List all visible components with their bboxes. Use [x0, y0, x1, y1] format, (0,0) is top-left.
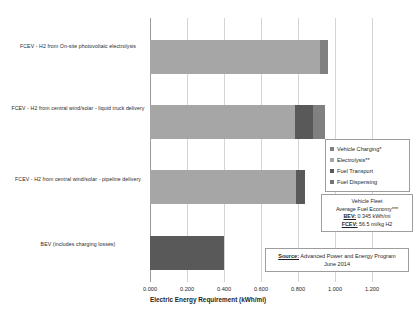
bar-segment-fuel-transport — [295, 105, 313, 139]
xtick-0-600: 0.600 — [254, 286, 268, 292]
infobox-bev-row: BEV: 0.345 kWh/mi — [324, 213, 410, 221]
category-label-fcev-pv: FCEV - H2 from On-site photovoltaic elec… — [8, 43, 148, 50]
bar-bev — [150, 236, 224, 270]
legend-item-vehicle-charging[interactable]: Vehicle Charging* — [330, 144, 406, 154]
xtick-0-200: 0.200 — [180, 286, 194, 292]
xtick-0-000: 0.000 — [143, 286, 157, 292]
source-box: Source: Advanced Power and Energy Progra… — [265, 248, 409, 272]
x-axis-title: Electric Energy Requirement (kWh/mi) — [0, 296, 416, 303]
legend-swatch-icon — [330, 158, 334, 162]
bar-fcev-liquid-truck — [150, 105, 325, 139]
infobox-line1: Vehicle Fleet — [324, 198, 410, 206]
xtick-1-200: 1.200 — [365, 286, 379, 292]
legend-item-fuel-dispensing[interactable]: Fuel Dispensing — [330, 177, 406, 187]
infobox-fcev-value: 56.5 mi/kg H2 — [359, 221, 392, 227]
chart-legend: Vehicle Charging* Electrolysis** Fuel Tr… — [325, 139, 410, 192]
legend-label: Fuel Dispensing — [337, 177, 377, 187]
bar-segment-fuel-dispensing — [320, 40, 327, 74]
infobox-fcev-label: FCEV: — [342, 221, 358, 227]
infobox-line2: Average Fuel Economy*** — [324, 206, 410, 214]
infobox-bev-value: 0.345 kWh/mi — [358, 213, 391, 219]
legend-label: Vehicle Charging* — [337, 144, 381, 154]
xtick-1-000: 1.000 — [328, 286, 342, 292]
xtick-0-400: 0.400 — [217, 286, 231, 292]
legend-label: Fuel Transport — [337, 166, 373, 176]
legend-swatch-icon — [330, 169, 334, 173]
category-label-fcev-liquid: FCEV - H2 from central wind/solar - liqu… — [8, 105, 148, 112]
source-text: Advanced Power and Energy Program — [300, 253, 395, 259]
bar-segment-electrolysis — [150, 40, 320, 74]
bar-segment-electrolysis — [150, 170, 296, 204]
chart-container: FCEV - H2 from On-site photovoltaic elec… — [0, 0, 416, 323]
source-date: June 2014 — [270, 260, 404, 268]
fuel-economy-infobox: Vehicle Fleet Average Fuel Economy*** BE… — [321, 194, 413, 232]
legend-label: Electrolysis** — [337, 155, 370, 165]
bar-fcev-photovoltaic — [150, 40, 328, 74]
bar-segment-electrolysis — [150, 105, 295, 139]
legend-item-fuel-transport[interactable]: Fuel Transport — [330, 166, 406, 176]
bar-segment-fuel-transport — [296, 170, 305, 204]
legend-item-electrolysis[interactable]: Electrolysis** — [330, 155, 406, 165]
legend-swatch-icon — [330, 147, 334, 151]
bar-fcev-pipeline — [150, 170, 305, 204]
xtick-0-800: 0.800 — [291, 286, 305, 292]
infobox-fcev-row: FCEV: 56.5 mi/kg H2 — [324, 221, 410, 229]
category-label-fcev-pipeline: FCEV - H2 from central wind/solar - pipe… — [8, 176, 148, 183]
source-label: Source: — [278, 253, 299, 259]
legend-swatch-icon — [330, 180, 334, 184]
bar-segment-fuel-dispensing — [313, 105, 325, 139]
category-label-bev: BEV (includes charging losses) — [8, 241, 148, 248]
source-line: Source: Advanced Power and Energy Progra… — [270, 252, 404, 260]
infobox-bev-label: BEV: — [343, 213, 356, 219]
bar-segment-vehicle-charging — [150, 236, 224, 270]
